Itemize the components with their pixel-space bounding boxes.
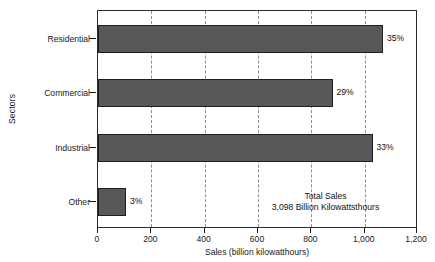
- y-axis-tick-residential: [89, 38, 96, 39]
- x-axis-tick-label-1200: 1,200: [405, 234, 427, 244]
- x-axis-tick-800: [310, 228, 311, 233]
- x-axis-title: Sales (billion kilowatthours): [97, 247, 417, 257]
- bar-value-other: 3%: [130, 196, 142, 206]
- y-axis-label-residential: Residential: [14, 34, 90, 44]
- y-axis-label-commercial: Commercial: [14, 88, 90, 98]
- total-sales-value: 3,098 Billion Kilowattsthours: [238, 202, 413, 213]
- y-axis-label-other: Other: [14, 197, 90, 207]
- x-axis-tick-label-0: 0: [95, 234, 100, 244]
- bar-value-industrial: 33%: [377, 142, 394, 152]
- y-axis-tick-industrial: [89, 147, 96, 148]
- bar-value-commercial: 29%: [337, 87, 354, 97]
- x-axis-tick-label-800: 800: [303, 234, 317, 244]
- bar-commercial: [98, 79, 333, 107]
- y-axis-tick-commercial: [89, 92, 96, 93]
- total-sales-title: Total Sales: [238, 191, 413, 202]
- y-axis-tick-other: [89, 201, 96, 202]
- bar-chart: Sectors Residential Commercial Industria…: [0, 0, 435, 262]
- total-sales-annotation: Total Sales 3,098 Billion Kilowattsthour…: [238, 191, 413, 213]
- x-axis-tick-label-200: 200: [143, 234, 157, 244]
- y-axis-category-labels: Residential Commercial Industrial Other: [8, 0, 90, 262]
- x-axis-tick-0: [97, 228, 98, 233]
- x-axis-tick-600: [257, 228, 258, 233]
- bar-residential: [98, 25, 383, 53]
- x-axis-tick-label-600: 600: [250, 234, 264, 244]
- bar-value-residential: 35%: [387, 33, 404, 43]
- x-axis-tick-label-400: 400: [197, 234, 211, 244]
- x-axis-tick-1200: [416, 228, 417, 233]
- x-axis-tick-label-1000: 1,000: [353, 234, 375, 244]
- x-axis-tick-1000: [364, 228, 365, 233]
- bar-industrial: [98, 134, 373, 162]
- plot-area: 35% 29% 33% 3% Total Sales 3,098 Billion…: [97, 10, 417, 228]
- x-axis-tick-400: [204, 228, 205, 233]
- x-axis-tick-200: [150, 228, 151, 233]
- y-axis-label-industrial: Industrial: [14, 143, 90, 153]
- bar-other: [98, 188, 126, 216]
